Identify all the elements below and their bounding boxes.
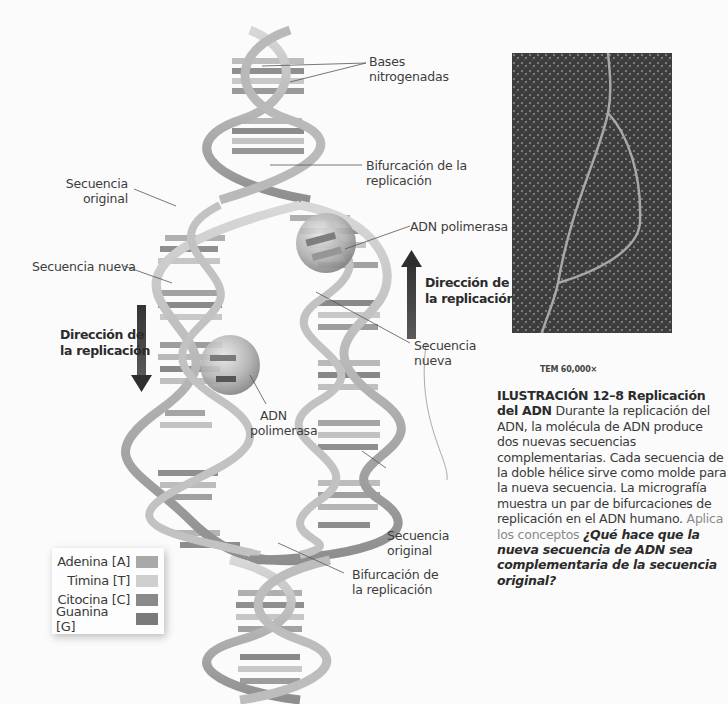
label-bases-nitrogenadas: Bases nitrogenadas: [369, 54, 449, 84]
base-color-legend: Adenina [A] Timina [T] Citocina [C] Guan…: [52, 548, 164, 634]
label-line: la replicación: [352, 582, 438, 597]
label-line: replicación: [366, 173, 467, 188]
legend-label: Adenina [A]: [57, 554, 130, 569]
label-line: original: [60, 191, 128, 206]
label-line: Secuencia: [60, 176, 128, 191]
label-line: Dirección de: [425, 275, 515, 291]
label-direction-left: Dirección de la replicación: [60, 327, 150, 359]
arrow-up-icon: [401, 250, 422, 339]
legend-swatch: [136, 556, 158, 568]
label-line: Secuencia: [414, 338, 476, 353]
label-line: polimerasa: [250, 423, 317, 438]
label-original-right: Secuencia original: [387, 528, 449, 558]
label-fork-top: Bifurcación de la replicación: [366, 158, 467, 188]
label-direction-right: Dirección de la replicación: [425, 275, 515, 307]
label-line: original: [387, 543, 449, 558]
legend-label: Guanina [G]: [56, 604, 130, 634]
legend-label: Timina [T]: [67, 573, 130, 588]
label-new-left: Secuencia nueva: [32, 259, 136, 274]
figure-caption: ILUSTRACIÓN 12–8 Replicación del ADN Dur…: [497, 388, 727, 588]
caption-body: Durante la replicación del ADN, la moléc…: [497, 403, 726, 526]
legend-swatch: [136, 594, 158, 606]
label-line: la replicación: [425, 291, 515, 307]
label-fork-bottom: Bifurcación de la replicación: [352, 567, 438, 597]
label-polymerase-top: ADN polimerasa: [410, 219, 508, 234]
label-line: Bifurcación de la: [366, 158, 467, 173]
figure-number: ILUSTRACIÓN 12–8: [497, 388, 624, 403]
micrograph-image: [512, 53, 672, 333]
label-line: nueva: [414, 353, 476, 368]
tem-micrograph: [512, 53, 672, 333]
label-new-right: Secuencia nueva: [414, 338, 476, 368]
label-polymerase-bottom: ADN polimerasa: [250, 408, 317, 438]
legend-item-adenina: Adenina [A]: [56, 552, 158, 571]
label-line: Dirección de: [60, 327, 150, 343]
polymerase-bottom-sphere: [200, 335, 260, 395]
legend-item-guanina: Guanina [G]: [56, 609, 158, 628]
legend-swatch: [136, 613, 158, 625]
label-line: nitrogenadas: [369, 69, 449, 84]
legend-swatch: [136, 575, 158, 587]
label-line: Secuencia: [387, 528, 449, 543]
label-original-left: Secuencia original: [60, 176, 128, 206]
label-line: Bases: [369, 54, 449, 69]
polymerase-top-sphere: [296, 213, 356, 273]
label-line: Bifurcación de: [352, 567, 438, 582]
label-line: la replicación: [60, 343, 150, 359]
magnification-label: TEM 60,000×: [540, 365, 597, 374]
label-line: ADN: [250, 408, 317, 423]
legend-item-timina: Timina [T]: [56, 571, 158, 590]
